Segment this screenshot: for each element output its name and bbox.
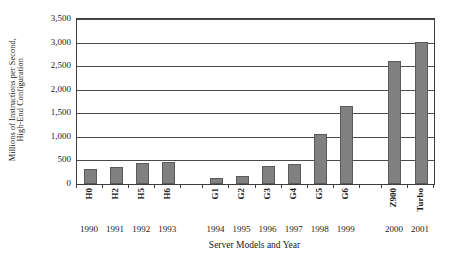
x-axis-year-label: 1990 — [80, 224, 98, 234]
bar-slot — [282, 19, 308, 184]
year-label-slot: 1999 — [333, 222, 359, 236]
year-label-slot: 2001 — [407, 222, 433, 236]
x-axis-model-label: Turbo — [416, 188, 425, 212]
year-label-slot: 1993 — [154, 222, 180, 236]
year-label-slot: 1990 — [76, 222, 102, 236]
y-axis-tick-label: 1,000 — [51, 131, 71, 141]
x-axis-year-label: 1992 — [132, 224, 150, 234]
x-axis-model-label: G3 — [263, 188, 272, 200]
model-label-slot: H0 — [76, 188, 102, 220]
bar-slot — [229, 19, 255, 184]
y-axis-tick-label: 3,500 — [51, 13, 71, 23]
bar — [110, 167, 123, 184]
bar — [340, 106, 353, 184]
x-axis-model-label: G5 — [315, 188, 324, 200]
x-axis-year-label: 2001 — [411, 224, 429, 234]
x-axis-model-label: H2 — [111, 188, 120, 200]
x-axis-year-label: 1996 — [259, 224, 277, 234]
model-label-slot: H5 — [128, 188, 154, 220]
x-axis-model-label: Z900 — [389, 188, 398, 208]
bar-slot — [334, 19, 360, 184]
x-axis-year-label: 1997 — [285, 224, 303, 234]
bar — [314, 134, 327, 184]
bar-slot — [408, 19, 434, 184]
model-label-slot: G4 — [281, 188, 307, 220]
bar-chart-figure: Millions of Instructions per Second, Hig… — [0, 0, 454, 266]
bar-group-gap — [360, 19, 382, 184]
x-axis-model-labels: H0H2H5H6G1G2G3G4G5G6Z900Turbo — [76, 188, 433, 220]
x-axis-year-label: 2000 — [385, 224, 403, 234]
x-axis-year-label: 1999 — [337, 224, 355, 234]
model-label-slot: H2 — [102, 188, 128, 220]
x-axis-title: Server Models and Year — [76, 240, 433, 250]
y-axis-tick-label: 3,000 — [51, 37, 71, 47]
bar-slot — [256, 19, 282, 184]
bar — [388, 61, 401, 184]
model-label-slot: G2 — [228, 188, 254, 220]
x-axis-model-label: G2 — [237, 188, 246, 200]
year-label-slot: 1998 — [307, 222, 333, 236]
year-label-slot: 1992 — [128, 222, 154, 236]
y-axis-tick-label: 2,000 — [51, 84, 71, 94]
x-axis-year-label: 1991 — [106, 224, 124, 234]
bar-slot — [103, 19, 129, 184]
bar — [415, 42, 428, 184]
model-label-slot: H6 — [154, 188, 180, 220]
y-axis-tick-labels: 05001,0001,5002,0002,5003,0003,500 — [34, 12, 74, 188]
year-label-slot: 1997 — [281, 222, 307, 236]
bar — [136, 163, 149, 184]
model-label-slot: G3 — [255, 188, 281, 220]
y-axis-tick-label: 1,500 — [51, 107, 71, 117]
x-axis-model-label: G1 — [211, 188, 220, 200]
bar-slot — [77, 19, 103, 184]
x-axis-model-label: G6 — [341, 188, 350, 200]
year-label-slot: 2000 — [381, 222, 407, 236]
x-axis-year-label: 1995 — [233, 224, 251, 234]
bar-slot — [382, 19, 408, 184]
model-label-slot: G6 — [333, 188, 359, 220]
model-label-slot: Z900 — [381, 188, 407, 220]
model-label-slot: G1 — [202, 188, 228, 220]
bar — [162, 162, 175, 184]
model-label-slot: Turbo — [407, 188, 433, 220]
year-label-slot: 1995 — [228, 222, 254, 236]
bar-slot — [308, 19, 334, 184]
model-label-gap — [359, 188, 381, 220]
x-axis-year-label: 1993 — [158, 224, 176, 234]
y-axis-tick-label: 0 — [67, 178, 72, 188]
x-axis-year-label: 1994 — [206, 224, 224, 234]
bar-slot — [129, 19, 155, 184]
bar — [288, 164, 301, 184]
x-axis-year-label: 1998 — [311, 224, 329, 234]
x-axis-model-label: H0 — [85, 188, 94, 200]
bar-slot — [155, 19, 181, 184]
x-axis-model-label: H5 — [137, 188, 146, 200]
year-label-gap — [180, 222, 202, 236]
bar — [84, 169, 97, 184]
y-axis-title: Millions of Instructions per Second, Hig… — [0, 0, 34, 200]
x-axis-model-label: H6 — [163, 188, 172, 200]
y-axis-tick-label: 2,500 — [51, 60, 71, 70]
y-axis-tick-label: 500 — [58, 154, 72, 164]
model-label-gap — [180, 188, 202, 220]
model-label-slot: G5 — [307, 188, 333, 220]
bar — [236, 176, 249, 184]
year-label-slot: 1996 — [255, 222, 281, 236]
bar-slot — [203, 19, 229, 184]
bars-layer — [77, 19, 434, 184]
year-label-slot: 1991 — [102, 222, 128, 236]
year-label-gap — [359, 222, 381, 236]
plot-area — [76, 18, 435, 185]
year-label-slot: 1994 — [202, 222, 228, 236]
x-axis-model-label: G4 — [289, 188, 298, 200]
y-axis-title-line-2: High-End Configuration — [17, 58, 25, 142]
bar — [262, 166, 275, 184]
x-axis-tick — [433, 184, 434, 188]
x-axis-year-labels: 1990199119921993199419951996199719981999… — [76, 222, 433, 236]
bar-group-gap — [181, 19, 203, 184]
